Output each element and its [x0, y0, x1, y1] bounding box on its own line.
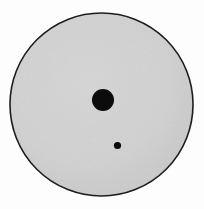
figure-illustration: [0, 0, 204, 209]
figure-canvas: Gray disk with two dark circular spots: [0, 0, 204, 209]
small-dark-spot: [114, 142, 121, 149]
large-dark-spot: [92, 89, 114, 111]
